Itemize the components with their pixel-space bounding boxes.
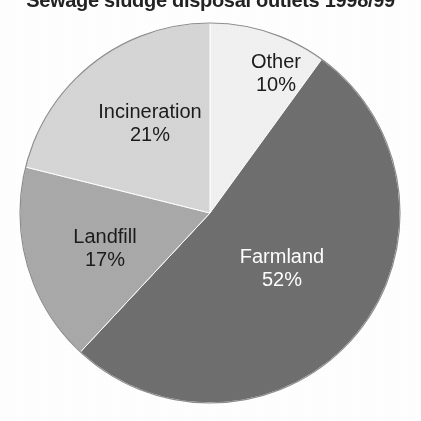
pie-slice-group xyxy=(20,23,400,403)
pie-chart-figure: Sewage sludge disposal outlets 1998/99 O… xyxy=(0,0,421,421)
pie-svg xyxy=(0,0,421,421)
pie-chart-canvas xyxy=(0,0,421,421)
